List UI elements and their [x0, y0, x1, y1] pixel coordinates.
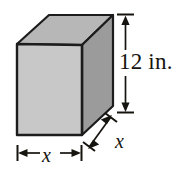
width-dimension-label: x: [42, 145, 51, 165]
width-right-arrowhead: [72, 149, 82, 157]
height-down-arrowhead: [121, 103, 129, 113]
depth-dimension-label: x: [115, 131, 124, 151]
height-dimension-label: 12 in.: [119, 50, 173, 73]
prism-solid: [17, 15, 113, 135]
prism-drawing: [0, 0, 176, 173]
rectangular-prism-figure: 12 in. x x: [0, 0, 176, 173]
height-up-arrowhead: [121, 16, 129, 26]
prism-front-face: [17, 44, 82, 135]
depth-near-arrowhead: [88, 140, 99, 149]
width-left-arrowhead: [18, 149, 28, 157]
